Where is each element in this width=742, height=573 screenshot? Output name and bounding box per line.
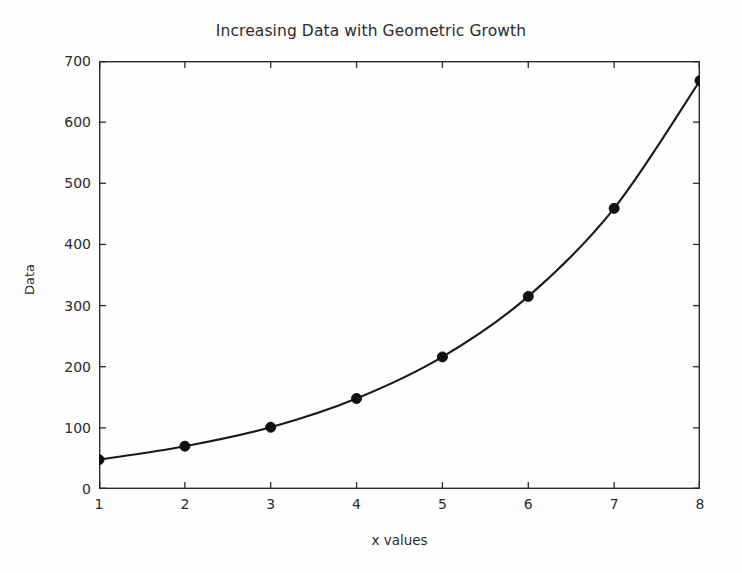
data-point-x7 xyxy=(609,203,619,213)
y-tick-label-700: 700 xyxy=(31,54,91,68)
x-tick-label-4: 4 xyxy=(337,497,377,511)
y-tick-label-300: 300 xyxy=(31,299,91,313)
y-tick-label-500: 500 xyxy=(31,176,91,190)
data-point-x6 xyxy=(523,291,533,301)
data-point-x5 xyxy=(437,352,447,362)
plot-area xyxy=(99,61,700,489)
x-axis-tick-labels: 12345678 xyxy=(99,497,700,517)
y-tick-label-100: 100 xyxy=(31,421,91,435)
axis-ticks xyxy=(99,61,700,489)
data-series-line xyxy=(99,81,700,460)
y-tick-label-200: 200 xyxy=(31,360,91,374)
data-point-x3 xyxy=(266,422,276,432)
data-point-x2 xyxy=(180,441,190,451)
x-axis-label: x values xyxy=(99,532,700,548)
y-tick-label-400: 400 xyxy=(31,237,91,251)
data-point-x4 xyxy=(352,394,362,404)
x-tick-label-3: 3 xyxy=(251,497,291,511)
x-tick-label-6: 6 xyxy=(508,497,548,511)
x-tick-label-5: 5 xyxy=(422,497,462,511)
series-path-data xyxy=(99,81,700,460)
chart-figure: Increasing Data with Geometric Growth Da… xyxy=(0,0,742,573)
x-tick-label-8: 8 xyxy=(680,497,720,511)
plot-svg xyxy=(99,61,700,489)
y-tick-label-600: 600 xyxy=(31,115,91,129)
data-point-x1 xyxy=(99,455,104,465)
y-tick-label-0: 0 xyxy=(31,482,91,496)
plot-frame xyxy=(100,62,700,489)
x-tick-label-7: 7 xyxy=(594,497,634,511)
y-axis-tick-labels: 0100200300400500600700 xyxy=(25,61,91,489)
data-point-markers xyxy=(99,76,700,465)
chart-title: Increasing Data with Geometric Growth xyxy=(0,22,742,40)
x-tick-label-1: 1 xyxy=(79,497,119,511)
data-point-x8 xyxy=(695,76,700,86)
x-tick-label-2: 2 xyxy=(165,497,205,511)
